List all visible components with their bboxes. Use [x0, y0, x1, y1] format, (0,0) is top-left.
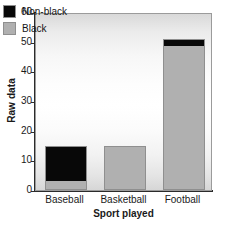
legend-entry-black: Black [3, 21, 113, 36]
y-axis-tick-mark [31, 43, 35, 44]
y-axis-tick-mark [31, 132, 35, 133]
x-axis-title: Sport played [35, 208, 212, 219]
bar-football [163, 39, 205, 190]
x-axis-tick-label-football: Football [153, 194, 212, 206]
bar-basketball [104, 146, 146, 191]
y-axis-tick-mark [31, 72, 35, 73]
x-axis-tick-labels: BaseballBasketballFootball [35, 194, 212, 208]
legend-entry-non-black: Non-black [3, 4, 113, 19]
plot-area [35, 13, 212, 191]
bar-segment-non-black [46, 147, 86, 181]
bar-segment-black [46, 181, 86, 190]
y-axis-tick-label: 30 [14, 96, 32, 106]
bar-segment-black [105, 147, 145, 190]
x-axis-tick-label-baseball: Baseball [35, 194, 94, 206]
legend-swatch-black [3, 22, 16, 35]
legend-swatch-non-black [3, 5, 16, 18]
legend-label-non-black: Non-black [22, 6, 67, 17]
y-axis-tick-mark [31, 191, 35, 192]
chart-legend: Non-blackBlack [3, 4, 113, 38]
y-axis-tick-mark [31, 102, 35, 103]
y-axis-tick-mark [31, 13, 35, 14]
chart-figure: Raw data 0102030405060 BaseballBasketbal… [0, 0, 227, 235]
bar-segment-black [164, 46, 204, 189]
bar-baseball [45, 146, 87, 191]
y-axis-tick-label: 50 [14, 37, 32, 47]
legend-label-black: Black [22, 23, 46, 34]
y-axis-tick-label: 0 [14, 185, 32, 195]
x-axis-tick-label-basketball: Basketball [94, 194, 153, 206]
y-axis-tick-label: 10 [14, 155, 32, 165]
y-axis-tick-label: 20 [14, 126, 32, 136]
y-axis-tick-label: 40 [14, 66, 32, 76]
y-axis-tick-mark [31, 161, 35, 162]
